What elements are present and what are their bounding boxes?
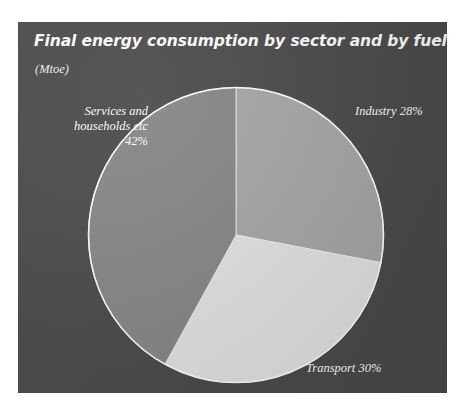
pie-label-industry: Industry 28% <box>355 104 447 119</box>
pie-label-transport: Transport 30% <box>306 361 446 376</box>
pie-chart <box>18 22 447 393</box>
pie-label-services: Services and households etc 42% <box>30 104 148 149</box>
figure: Final energy consumption by sector and b… <box>0 0 460 415</box>
pie-chart-svg <box>18 22 447 393</box>
chart-panel: Final energy consumption by sector and b… <box>18 22 447 393</box>
